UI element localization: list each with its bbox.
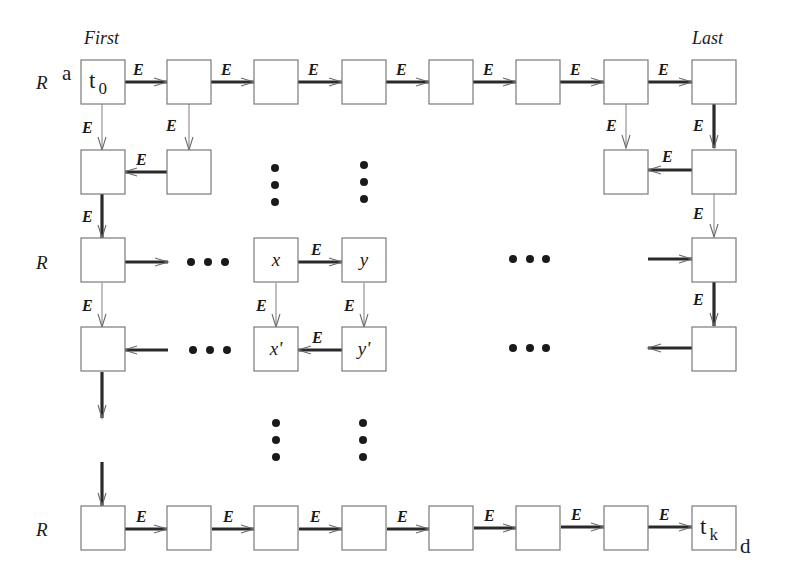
- grid-cell: [342, 506, 386, 550]
- edge-label: E: [309, 508, 321, 525]
- grid-cell: [692, 60, 736, 104]
- edge-arrow: E: [125, 508, 167, 533]
- row-label-bottom: R: [35, 519, 48, 540]
- grid-cell: x': [254, 327, 298, 371]
- edge-arrow: E: [124, 61, 167, 86]
- edge-label: E: [222, 508, 234, 525]
- grid-cell: [692, 150, 736, 194]
- edge-label: E: [657, 61, 669, 78]
- corner-label-d: d: [740, 534, 751, 558]
- row-label-top: R: [35, 72, 48, 93]
- edge-arrow: E: [255, 283, 280, 327]
- ellipsis-dot: [360, 178, 368, 186]
- edge-label: E: [307, 61, 319, 78]
- ellipsis-dot: [206, 346, 214, 354]
- ellipsis-dot: [221, 258, 229, 266]
- tiling-grid-diagram: EEEEEEEEEEEEEEEEEEEEEEEEEEEE t0xyx'y'tk …: [0, 0, 788, 581]
- edge-arrow: E: [165, 104, 193, 150]
- edge-arrow: E: [211, 61, 254, 86]
- edge-arrow: E: [81, 283, 106, 327]
- edge-arrow: E: [81, 194, 106, 238]
- edge-arrow: E: [473, 61, 516, 86]
- ellipsis-dot: [272, 436, 280, 444]
- edge-arrow: E: [298, 241, 342, 266]
- grid-cell: [516, 506, 560, 550]
- grid-cell: [81, 506, 125, 550]
- edge-label: E: [569, 61, 581, 78]
- ellipsis-dot: [271, 198, 279, 206]
- edge-arrow: [648, 255, 692, 263]
- grid-cell: t0: [81, 60, 125, 104]
- ellipsis-dot: [271, 181, 279, 189]
- grid-cell: y: [342, 238, 386, 282]
- edge-arrow: E: [648, 61, 692, 86]
- ellipsis-dot: [526, 344, 534, 352]
- ellipsis-dots: [187, 161, 550, 461]
- ellipsis-dot: [272, 453, 280, 461]
- edge-label: E: [483, 507, 495, 524]
- edge-label: E: [81, 297, 93, 314]
- ellipsis-dot: [223, 346, 231, 354]
- edge-arrow: E: [386, 61, 429, 86]
- ellipsis-dot: [526, 255, 534, 263]
- header-first: First: [83, 28, 120, 48]
- grid-cell: [167, 506, 211, 550]
- ellipsis-dot: [189, 346, 197, 354]
- edge-label: E: [692, 291, 704, 308]
- edge-label: E: [570, 506, 582, 523]
- edge-arrow: E: [692, 104, 718, 148]
- edge-arrow: E: [692, 282, 718, 326]
- ellipsis-dot: [360, 195, 368, 203]
- grid-cell: [342, 60, 386, 104]
- edge-arrow: E: [692, 192, 718, 237]
- edge-label: E: [692, 117, 704, 134]
- grid-cell: [692, 327, 736, 371]
- edge-arrows: EEEEEEEEEEEEEEEEEEEEEEEEEEEE: [81, 61, 718, 533]
- edge-label: E: [395, 61, 407, 78]
- edge-arrow: E: [124, 151, 167, 176]
- cell-label: x': [269, 338, 283, 359]
- edge-label: E: [396, 508, 408, 525]
- edge-label: E: [165, 117, 177, 134]
- edge-arrow: E: [343, 283, 368, 327]
- edge-arrow: [124, 346, 168, 354]
- grid-cells: t0xyx'y'tk: [81, 60, 736, 550]
- ellipsis-dot: [204, 258, 212, 266]
- edge-arrow: E: [299, 508, 342, 533]
- ellipsis-dot: [360, 161, 368, 169]
- corner-label-a: a: [62, 61, 72, 85]
- ellipsis-dot: [271, 164, 279, 172]
- edge-label: E: [81, 119, 93, 136]
- grid-cell: y': [342, 327, 386, 371]
- grid-cell: [604, 150, 648, 194]
- ellipsis-dot: [359, 436, 367, 444]
- edge-label: E: [310, 241, 322, 258]
- edge-label: E: [135, 151, 147, 168]
- edge-label: E: [343, 297, 355, 314]
- header-last: Last: [691, 28, 724, 48]
- edge-label: E: [220, 61, 232, 78]
- grid-cell: [429, 60, 473, 104]
- edge-label: E: [135, 508, 147, 525]
- ellipsis-dot: [509, 255, 517, 263]
- edge-label: E: [692, 205, 704, 222]
- edge-arrow: E: [81, 104, 106, 150]
- grid-cell: [81, 238, 125, 282]
- cell-label: y: [358, 249, 369, 270]
- edge-label: E: [81, 208, 93, 225]
- edge-arrow: [98, 462, 106, 506]
- edge-arrow: E: [298, 61, 342, 86]
- grid-cell: tk: [692, 506, 736, 550]
- ellipsis-dot: [542, 344, 550, 352]
- grid-cell: [516, 60, 560, 104]
- ellipsis-dot: [272, 419, 280, 427]
- grid-cell: [604, 60, 648, 104]
- edge-label: E: [658, 506, 670, 523]
- grid-cell: [167, 60, 211, 104]
- edge-arrow: E: [474, 507, 516, 532]
- edge-arrow: E: [298, 329, 342, 354]
- edge-arrow: E: [560, 61, 604, 86]
- grid-cell: [604, 506, 648, 550]
- grid-cell: [692, 238, 736, 282]
- edge-label: E: [311, 329, 323, 346]
